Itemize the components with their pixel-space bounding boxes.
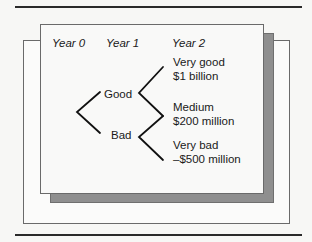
root-fork <box>77 92 100 133</box>
outcome-medium-label: Medium <box>173 101 214 114</box>
bad-fork <box>139 116 163 160</box>
node-good: Good <box>104 88 132 101</box>
outcome-very-bad-label: Very bad <box>173 139 218 152</box>
outcome-very-good-value: $1 billion <box>173 70 218 83</box>
good-fork <box>139 67 163 116</box>
outcome-very-bad-value: –$500 million <box>173 153 241 166</box>
outcome-very-good-label: Very good <box>173 56 225 69</box>
node-bad: Bad <box>111 129 131 142</box>
tree-branches <box>0 0 312 242</box>
outcome-medium-value: $200 million <box>173 115 234 128</box>
